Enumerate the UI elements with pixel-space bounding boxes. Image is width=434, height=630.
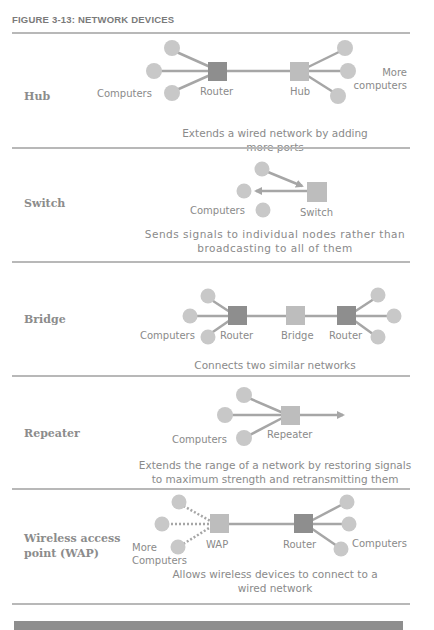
computer-node	[237, 184, 252, 199]
network-diagram: Computers Router Hub More computers Comp…	[0, 0, 434, 630]
wap-node	[210, 514, 229, 533]
label-computers: Computers	[352, 538, 407, 549]
computer-node	[217, 407, 233, 423]
computer-node	[340, 63, 356, 79]
label-more-computers-line1: More	[132, 542, 157, 553]
label-wap: WAP	[206, 539, 228, 550]
computer-node	[164, 85, 180, 101]
computer-node	[371, 330, 386, 345]
computer-node	[255, 162, 270, 177]
computer-node	[201, 330, 216, 345]
label-bridge: Bridge	[281, 330, 314, 341]
wap-diagram: More Computers WAP Router Computers	[132, 495, 407, 567]
computer-node	[201, 289, 216, 304]
wireless-link	[180, 504, 214, 523]
repeater-node	[281, 406, 300, 425]
computer-node	[371, 288, 386, 303]
bridge-node	[286, 306, 305, 325]
label-router: Router	[283, 539, 317, 550]
label-router-left: Router	[220, 330, 254, 341]
label-hub: Hub	[290, 86, 310, 97]
switch-diagram: Computers Switch	[190, 162, 333, 219]
label-computers: Computers	[172, 434, 227, 445]
computer-node	[164, 40, 180, 56]
label-computers: Computers	[140, 330, 195, 341]
repeater-diagram: Computers Repeater	[172, 387, 343, 446]
computer-node	[183, 309, 198, 324]
computer-node	[172, 495, 187, 510]
computer-node	[330, 88, 346, 104]
label-more-computers-line2: computers	[354, 80, 407, 91]
label-router: Router	[200, 86, 234, 97]
bridge-diagram: Computers Router Bridge Router	[140, 288, 402, 345]
label-switch: Switch	[300, 207, 333, 218]
router-node	[337, 306, 356, 325]
computer-node	[342, 517, 357, 532]
router-node	[208, 62, 227, 81]
hub-diagram: Computers Router Hub More computers	[97, 40, 407, 104]
computer-node	[256, 203, 271, 218]
label-computers: Computers	[190, 205, 245, 216]
switch-node	[307, 182, 327, 202]
computer-node	[337, 40, 353, 56]
signal-arrow	[263, 170, 302, 186]
label-computers: Computers	[97, 88, 152, 99]
label-more-computers-line2: Computers	[132, 555, 187, 566]
computer-node	[387, 309, 402, 324]
computer-node	[236, 430, 252, 446]
computer-node	[340, 495, 355, 510]
label-repeater: Repeater	[267, 429, 313, 440]
hub-node	[290, 62, 309, 81]
router-node	[228, 306, 247, 325]
computer-node	[171, 540, 186, 555]
computer-node	[334, 542, 349, 557]
label-router-right: Router	[329, 330, 363, 341]
computer-node	[155, 517, 170, 532]
label-more-computers-line1: More	[382, 67, 407, 78]
router-node	[294, 514, 313, 533]
computer-node	[146, 63, 162, 79]
computer-node	[236, 387, 252, 403]
